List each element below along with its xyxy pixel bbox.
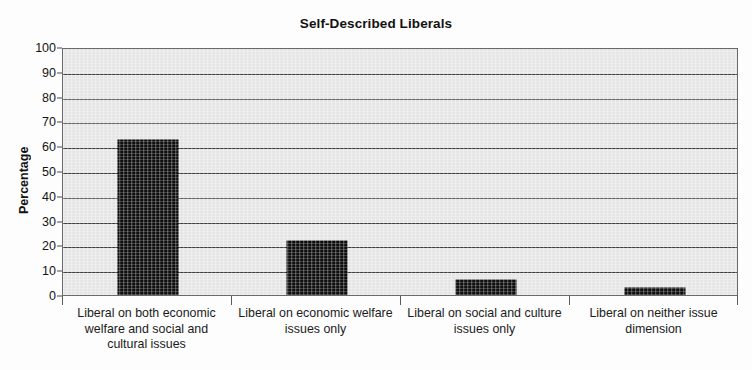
y-tick-label: 80 [42,91,56,105]
bar [287,241,347,296]
y-tick-label: 100 [35,41,56,55]
x-tick-mark [737,296,738,305]
x-axis-category-labels: Liberal on both economic welfare and soc… [62,306,738,366]
x-category-label: Liberal on social and culture issues onl… [400,306,569,366]
y-axis-label: Percentage [14,120,34,240]
y-tick-label: 40 [42,190,56,204]
x-axis-tick-marks [62,296,738,305]
bar [456,280,516,296]
y-tick-label: 30 [42,215,56,229]
gridline [63,74,737,75]
chart-title: Self-Described Liberals [0,16,752,31]
y-tick-label: 50 [42,165,56,179]
y-tick-label: 0 [49,289,56,303]
x-category-label: Liberal on neither issue dimension [569,306,738,366]
y-tick-label: 10 [42,264,56,278]
plot-area [62,48,738,296]
x-tick-mark [62,296,63,305]
x-category-label: Liberal on economic welfare issues only [231,306,400,366]
y-tick-label: 70 [42,115,56,129]
x-category-label: Liberal on both economic welfare and soc… [62,306,231,366]
y-tick-label: 90 [42,66,56,80]
bar [118,140,178,296]
y-tick-label: 60 [42,140,56,154]
x-tick-mark [400,296,401,305]
x-tick-mark [231,296,232,305]
y-axis-tick-labels: 0102030405060708090100 [36,48,62,296]
y-tick-label: 20 [42,239,56,253]
bar-chart: Self-Described Liberals Percentage 01020… [0,0,752,370]
x-tick-mark [569,296,570,305]
bar [625,288,685,296]
gridline [63,99,737,100]
gridline [63,123,737,124]
